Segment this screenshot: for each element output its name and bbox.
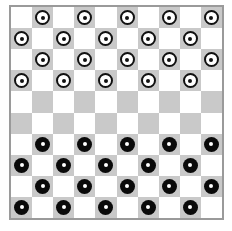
white-piece[interactable]	[204, 52, 219, 67]
board-square-r0-c9[interactable]	[201, 7, 222, 28]
black-piece[interactable]	[183, 158, 198, 173]
white-piece[interactable]	[162, 10, 177, 25]
board-square-r0-c6	[138, 7, 159, 28]
board-square-r2-c3[interactable]	[74, 49, 95, 70]
board-square-r1-c6[interactable]	[138, 28, 159, 49]
board-square-r3-c7	[159, 70, 180, 91]
board-square-r1-c4[interactable]	[95, 28, 116, 49]
white-piece[interactable]	[120, 52, 135, 67]
board-square-r9-c8[interactable]	[180, 197, 201, 218]
black-piece[interactable]	[120, 179, 135, 194]
board-square-r9-c0[interactable]	[11, 197, 32, 218]
black-piece[interactable]	[14, 158, 29, 173]
board-square-r5-c8[interactable]	[180, 113, 201, 134]
black-piece[interactable]	[98, 200, 113, 215]
board-square-r6-c9[interactable]	[201, 134, 222, 155]
board-square-r7-c3	[74, 155, 95, 176]
board-square-r8-c7[interactable]	[159, 176, 180, 197]
white-piece[interactable]	[141, 31, 156, 46]
board-square-r4-c1[interactable]	[32, 91, 53, 112]
board-square-r3-c6[interactable]	[138, 70, 159, 91]
white-piece[interactable]	[183, 73, 198, 88]
board-square-r9-c9	[201, 197, 222, 218]
board-square-r4-c3[interactable]	[74, 91, 95, 112]
white-piece[interactable]	[98, 73, 113, 88]
board-square-r9-c6[interactable]	[138, 197, 159, 218]
board-square-r6-c5[interactable]	[117, 134, 138, 155]
black-piece[interactable]	[183, 200, 198, 215]
board-square-r0-c5[interactable]	[117, 7, 138, 28]
board-square-r8-c8	[180, 176, 201, 197]
board-square-r5-c6[interactable]	[138, 113, 159, 134]
board-square-r5-c4[interactable]	[95, 113, 116, 134]
black-piece[interactable]	[204, 137, 219, 152]
black-piece[interactable]	[162, 137, 177, 152]
white-piece[interactable]	[183, 31, 198, 46]
board-square-r4-c7[interactable]	[159, 91, 180, 112]
board-square-r8-c5[interactable]	[117, 176, 138, 197]
board-square-r9-c4[interactable]	[95, 197, 116, 218]
board-square-r1-c8[interactable]	[180, 28, 201, 49]
black-piece[interactable]	[77, 137, 92, 152]
black-piece[interactable]	[141, 200, 156, 215]
board-square-r8-c9[interactable]	[201, 176, 222, 197]
board-square-r9-c5	[117, 197, 138, 218]
white-piece[interactable]	[35, 10, 50, 25]
board-square-r3-c1	[32, 70, 53, 91]
white-piece[interactable]	[56, 31, 71, 46]
board-square-r1-c2[interactable]	[53, 28, 74, 49]
black-piece[interactable]	[141, 158, 156, 173]
board-square-r0-c7[interactable]	[159, 7, 180, 28]
board-square-r9-c2[interactable]	[53, 197, 74, 218]
black-piece[interactable]	[77, 179, 92, 194]
board-square-r3-c8[interactable]	[180, 70, 201, 91]
board-square-r5-c2[interactable]	[53, 113, 74, 134]
board-square-r4-c5[interactable]	[117, 91, 138, 112]
board-square-r1-c0[interactable]	[11, 28, 32, 49]
board-square-r6-c0	[11, 134, 32, 155]
board-square-r8-c3[interactable]	[74, 176, 95, 197]
black-piece[interactable]	[35, 137, 50, 152]
white-piece[interactable]	[162, 52, 177, 67]
board-square-r1-c1	[32, 28, 53, 49]
board-square-r3-c0[interactable]	[11, 70, 32, 91]
board-square-r6-c7[interactable]	[159, 134, 180, 155]
board-square-r2-c5[interactable]	[117, 49, 138, 70]
black-piece[interactable]	[98, 158, 113, 173]
board-square-r8-c1[interactable]	[32, 176, 53, 197]
white-piece[interactable]	[120, 10, 135, 25]
board-square-r4-c9[interactable]	[201, 91, 222, 112]
black-piece[interactable]	[56, 158, 71, 173]
board-square-r3-c2[interactable]	[53, 70, 74, 91]
white-piece[interactable]	[98, 31, 113, 46]
white-piece[interactable]	[14, 73, 29, 88]
black-piece[interactable]	[56, 200, 71, 215]
board-square-r5-c0[interactable]	[11, 113, 32, 134]
board-square-r7-c0[interactable]	[11, 155, 32, 176]
white-piece[interactable]	[77, 10, 92, 25]
board-square-r8-c6	[138, 176, 159, 197]
board-square-r7-c4[interactable]	[95, 155, 116, 176]
board-square-r6-c3[interactable]	[74, 134, 95, 155]
board-square-r3-c4[interactable]	[95, 70, 116, 91]
black-piece[interactable]	[204, 179, 219, 194]
black-piece[interactable]	[35, 179, 50, 194]
white-piece[interactable]	[77, 52, 92, 67]
black-piece[interactable]	[120, 137, 135, 152]
board-square-r0-c3[interactable]	[74, 7, 95, 28]
white-piece[interactable]	[204, 10, 219, 25]
white-piece[interactable]	[141, 73, 156, 88]
black-piece[interactable]	[162, 179, 177, 194]
board-square-r7-c6[interactable]	[138, 155, 159, 176]
board-square-r2-c7[interactable]	[159, 49, 180, 70]
white-piece[interactable]	[35, 52, 50, 67]
board-square-r2-c9[interactable]	[201, 49, 222, 70]
white-piece[interactable]	[14, 31, 29, 46]
board-square-r0-c1[interactable]	[32, 7, 53, 28]
board-square-r2-c1[interactable]	[32, 49, 53, 70]
board-square-r6-c1[interactable]	[32, 134, 53, 155]
black-piece[interactable]	[14, 200, 29, 215]
white-piece[interactable]	[56, 73, 71, 88]
board-square-r7-c8[interactable]	[180, 155, 201, 176]
board-square-r7-c2[interactable]	[53, 155, 74, 176]
